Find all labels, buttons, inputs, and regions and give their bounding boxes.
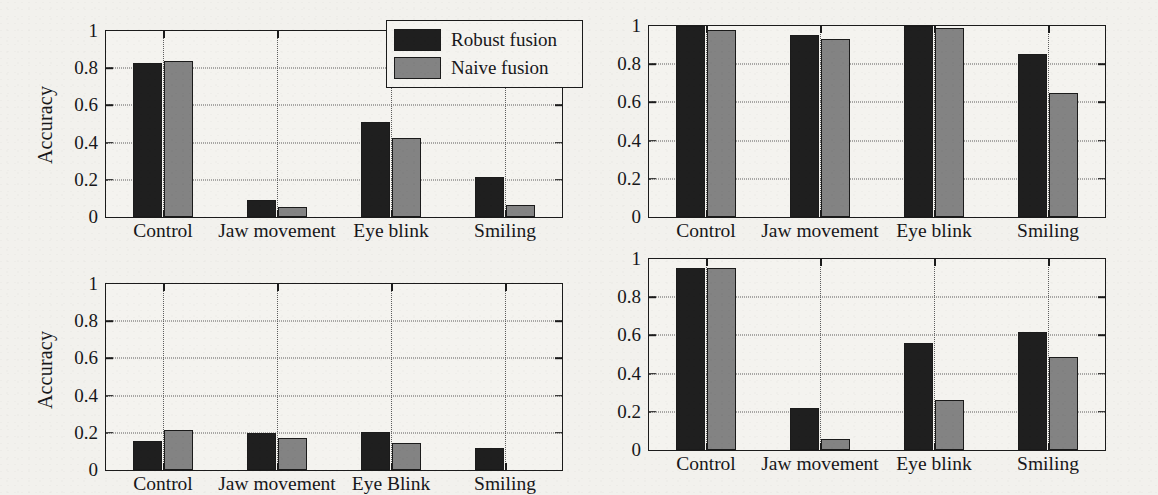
bar <box>935 400 964 450</box>
y-axis-tick-mark <box>1098 63 1105 65</box>
y-axis-tick-mark <box>106 142 113 144</box>
horizontal-gridline <box>106 358 562 359</box>
x-axis-tick-label: Smiling <box>1017 220 1079 242</box>
bar <box>904 343 933 450</box>
y-axis-tick-label: 0 <box>632 439 642 461</box>
y-axis-tick-mark <box>649 411 656 413</box>
x-axis-tick-label: Control <box>676 220 736 242</box>
x-axis-tick-label: Jaw movement <box>761 453 879 475</box>
bar <box>1049 93 1078 217</box>
legend-label-robust-fusion: Robust fusion <box>451 29 557 51</box>
y-axis-tick-label: 1 <box>89 20 99 42</box>
x-axis-tick-label: Eye blink <box>896 220 971 242</box>
bar <box>475 448 504 470</box>
y-axis-tick-label: 0.2 <box>617 168 641 190</box>
bar <box>361 432 390 470</box>
y-axis-tick-label: 0.6 <box>617 324 641 346</box>
y-axis-title: Accuracy <box>34 86 57 164</box>
y-axis-tick-mark <box>555 432 562 434</box>
y-axis-tick-mark <box>555 395 562 397</box>
x-axis-tick-mark <box>820 259 822 266</box>
bar <box>790 408 819 450</box>
vertical-gridline <box>820 259 821 450</box>
x-axis-tick-label: Control <box>133 473 193 495</box>
horizontal-gridline <box>106 321 562 322</box>
y-axis-tick-mark <box>555 320 562 322</box>
bar <box>506 205 535 217</box>
y-axis-tick-mark <box>106 395 113 397</box>
y-axis-tick-mark <box>555 179 562 181</box>
y-axis-tick-mark <box>1098 178 1105 180</box>
chart-panel-top-right: Accuracy ControlJaw movementEye blinkSmi… <box>579 0 1158 250</box>
x-axis-tick-label: Jaw movement <box>218 220 336 242</box>
bar <box>247 200 276 217</box>
x-axis-tick-mark <box>163 31 165 38</box>
four-panel-bar-chart-figure: Accuracy ControlJaw movementEye blinkSmi… <box>0 0 1158 495</box>
x-axis-tick-mark <box>277 284 279 291</box>
x-axis-tick-mark <box>706 259 708 266</box>
y-axis-tick-label: 0.4 <box>74 132 98 154</box>
chart-panel-bottom-right: Accuracy ControlJaw movementEye blinkSmi… <box>579 245 1158 495</box>
bar <box>475 177 504 217</box>
bar <box>1018 54 1047 217</box>
bar <box>904 26 933 217</box>
bar <box>1018 332 1047 450</box>
bar <box>133 441 162 470</box>
x-axis-tick-label: Smiling <box>474 220 536 242</box>
y-axis-tick-label: 0.4 <box>617 130 641 152</box>
x-axis-tick-labels: ControlJaw movementEye blinkSmiling <box>649 450 1105 480</box>
x-axis-tick-label: Control <box>133 220 193 242</box>
x-axis-tick-mark <box>391 284 393 291</box>
y-axis-tick-label: 0.6 <box>74 347 98 369</box>
bar <box>707 268 736 450</box>
y-axis-tick-mark <box>555 358 562 360</box>
y-axis-tick-mark <box>1098 140 1105 142</box>
plot-area-bottom-left: ControlJaw movementEye BlinkSmiling 00.2… <box>105 283 563 471</box>
bar <box>676 26 705 217</box>
x-axis-tick-labels: ControlJaw movementEye blinkSmiling <box>649 217 1105 247</box>
bar <box>1049 357 1078 450</box>
vertical-gridline <box>505 284 506 470</box>
y-axis-tick-mark <box>106 320 113 322</box>
y-axis-tick-mark <box>649 178 656 180</box>
horizontal-gridline <box>106 395 562 396</box>
x-axis-tick-mark <box>505 284 507 291</box>
y-axis-tick-mark <box>649 102 656 104</box>
x-axis-tick-mark <box>1048 259 1050 266</box>
y-axis-tick-mark <box>649 63 656 65</box>
bar <box>164 61 193 217</box>
x-axis-tick-mark <box>277 31 279 38</box>
y-axis-tick-label: 0.4 <box>617 363 641 385</box>
y-axis-tick-label: 0.8 <box>74 310 98 332</box>
y-axis-tick-label: 0.8 <box>617 53 641 75</box>
y-axis-tick-mark <box>649 335 656 337</box>
bar <box>821 39 850 217</box>
bar <box>392 138 421 217</box>
y-axis-tick-label: 1 <box>632 248 642 270</box>
x-axis-tick-mark <box>505 463 507 470</box>
y-axis-tick-mark <box>106 432 113 434</box>
plot-area-bottom-right: ControlJaw movementEye blinkSmiling 00.2… <box>648 258 1106 451</box>
x-axis-tick-label: Smiling <box>1017 453 1079 475</box>
y-axis-tick-mark <box>106 179 113 181</box>
y-axis-tick-label: 0.2 <box>74 169 98 191</box>
bar <box>361 122 390 217</box>
bar <box>821 439 850 450</box>
chart-panel-bottom-left: Accuracy ControlJaw movementEye BlinkSmi… <box>0 245 579 495</box>
x-axis-tick-label: Eye blink <box>896 453 971 475</box>
y-axis-tick-label: 0 <box>89 206 99 228</box>
y-axis-tick-mark <box>649 296 656 298</box>
x-axis-tick-label: Eye Blink <box>352 473 431 495</box>
chart-panel-top-left: Accuracy ControlJaw movementEye blinkSmi… <box>0 0 579 250</box>
y-axis-tick-label: 0.8 <box>74 57 98 79</box>
x-axis-tick-mark <box>934 259 936 266</box>
legend-entry-robust-fusion: Robust fusion <box>394 26 575 54</box>
y-axis-tick-label: 0.6 <box>617 91 641 113</box>
y-axis-tick-mark <box>106 67 113 69</box>
y-axis-tick-mark <box>1098 296 1105 298</box>
y-axis-tick-mark <box>106 105 113 107</box>
legend-swatch-robust-fusion <box>394 29 441 51</box>
legend: Robust fusion Naive fusion <box>386 20 583 88</box>
y-axis-tick-mark <box>1098 102 1105 104</box>
x-axis-tick-label: Jaw movement <box>761 220 879 242</box>
